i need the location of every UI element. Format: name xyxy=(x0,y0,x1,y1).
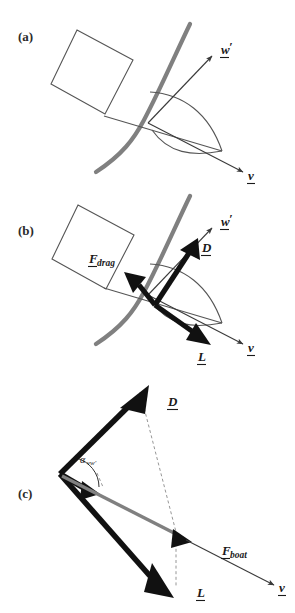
label-D-c: D xyxy=(167,394,178,410)
panel-b-label: (b) xyxy=(18,223,34,238)
label-v-c-text: v xyxy=(279,580,285,595)
label-w-prime-b-mark: ′ xyxy=(229,211,233,226)
panel-a-label: (a) xyxy=(18,29,33,44)
label-v-a-text: v xyxy=(248,168,254,183)
label-v-b-text: v xyxy=(248,340,254,355)
label-w-prime-a-mark: ′ xyxy=(229,39,233,54)
label-L-b-text: L xyxy=(197,349,206,364)
label-D-b: D xyxy=(201,240,212,256)
label-alpha-symbol: α xyxy=(80,454,86,465)
panel-c-label: (c) xyxy=(18,486,32,501)
label-L-b: L xyxy=(197,349,206,365)
label-D-c-text: D xyxy=(167,394,178,409)
label-D-b-text: D xyxy=(201,240,212,255)
sail-force-diagram: (a) w ′ v (b) xyxy=(0,0,295,613)
label-F-boat-c-sub: boat xyxy=(230,550,247,560)
label-alpha-sub: vw′ xyxy=(87,459,97,467)
label-F-drag-b-sub: drag xyxy=(97,258,115,268)
label-L-c-text: L xyxy=(196,585,205,600)
label-L-c: L xyxy=(196,585,205,601)
